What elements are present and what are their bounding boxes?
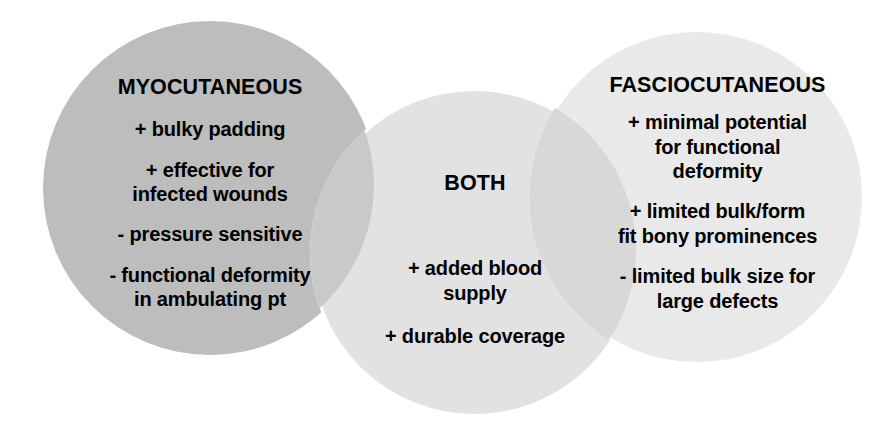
label-group-both: BOTH + added bloodsupply + durable cover… xyxy=(355,170,595,348)
label-group-myocutaneous: MYOCUTANEOUS + bulky padding + effective… xyxy=(60,74,360,312)
item-fasciocutaneous-1: + limited bulk/formfit bony prominences xyxy=(570,199,865,248)
title-myocutaneous: MYOCUTANEOUS xyxy=(60,74,360,100)
title-both: BOTH xyxy=(355,170,595,196)
venn-diagram: MYOCUTANEOUS + bulky padding + effective… xyxy=(0,0,876,421)
item-myocutaneous-0: + bulky padding xyxy=(60,117,360,141)
item-myocutaneous-1: + effective forinfected wounds xyxy=(60,158,360,207)
item-myocutaneous-3: - functional deformityin ambulating pt xyxy=(60,263,360,312)
item-both-1: + durable coverage xyxy=(355,324,595,348)
label-group-fasciocutaneous: FASCIOCUTANEOUS + minimal potentialfor f… xyxy=(570,72,865,313)
item-both-0: + added bloodsupply xyxy=(355,256,595,305)
item-fasciocutaneous-0: + minimal potentialfor functionaldeformi… xyxy=(570,110,865,183)
item-fasciocutaneous-2: - limited bulk size forlarge defects xyxy=(570,264,865,313)
title-fasciocutaneous: FASCIOCUTANEOUS xyxy=(570,72,865,98)
item-myocutaneous-2: - pressure sensitive xyxy=(60,222,360,246)
venn-text-layer: MYOCUTANEOUS + bulky padding + effective… xyxy=(0,0,876,421)
